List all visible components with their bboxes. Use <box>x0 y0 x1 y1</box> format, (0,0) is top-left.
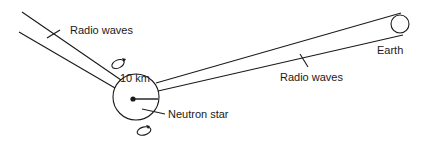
left-beam-lower-edge <box>19 32 115 88</box>
label-earth: Earth <box>377 44 403 56</box>
earth-circle <box>391 15 409 33</box>
label-neutron-star: Neutron star <box>168 108 229 120</box>
rotation-arrow-bottom-icon <box>136 125 152 137</box>
pulsar-diagram: Radio waves 10 km Neutron star Radio wav… <box>0 0 422 144</box>
leader-radio-waves-right <box>300 54 308 67</box>
label-radio-waves-left: Radio waves <box>70 24 133 36</box>
label-radius: 10 km <box>120 72 150 84</box>
leader-neutron-star <box>142 109 165 114</box>
rotation-arrow-top-icon <box>110 58 126 71</box>
label-radio-waves-right: Radio waves <box>280 71 343 83</box>
left-beam-upper-edge <box>22 12 121 80</box>
right-beam-upper-edge <box>156 13 401 83</box>
